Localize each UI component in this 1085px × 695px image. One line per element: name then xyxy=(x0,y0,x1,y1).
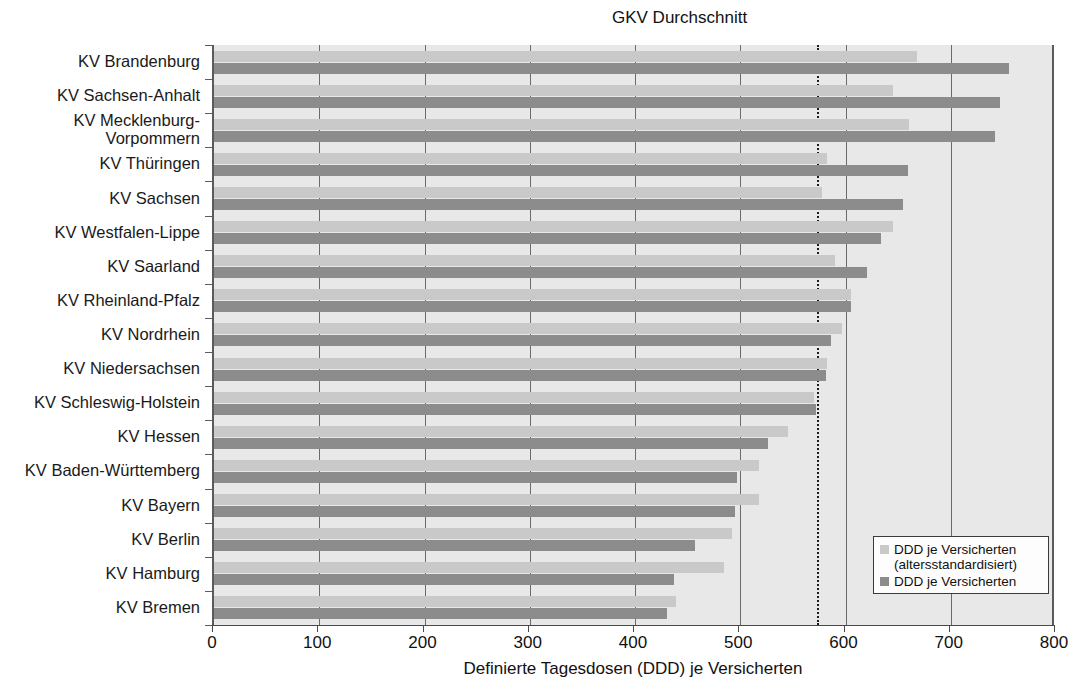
bar-light-3 xyxy=(214,153,827,164)
bar-light-1 xyxy=(214,85,893,96)
bar-light-15 xyxy=(214,562,724,573)
x-tick-700 xyxy=(949,625,950,632)
x-tick-label-500: 500 xyxy=(708,633,768,653)
y-tick-14 xyxy=(205,523,212,524)
category-label-15: KV Hamburg xyxy=(0,564,200,582)
average-line-label: GKV Durchschnitt xyxy=(612,8,1012,28)
y-tick-4 xyxy=(205,181,212,182)
category-label-5: KV Westfalen-Lippe xyxy=(0,223,200,241)
bar-light-0 xyxy=(214,51,917,62)
x-tick-label-400: 400 xyxy=(603,633,663,653)
legend-label-0: DDD je Versicherten (altersstandardisier… xyxy=(894,542,1042,572)
bar-light-12 xyxy=(214,460,759,471)
bar-light-5 xyxy=(214,221,893,232)
x-tick-100 xyxy=(317,625,318,632)
bar-group xyxy=(214,420,1052,454)
category-label-4: KV Sachsen xyxy=(0,189,200,207)
bar-dark-16 xyxy=(214,608,667,619)
y-tick-15 xyxy=(205,557,212,558)
y-tick-6 xyxy=(205,250,212,251)
x-tick-500 xyxy=(738,625,739,632)
category-label-8: KV Nordrhein xyxy=(0,325,200,343)
x-axis-title: Definierte Tagesdosen (DDD) je Versicher… xyxy=(212,659,1054,679)
category-label-1: KV Sachsen-Anhalt xyxy=(0,86,200,104)
category-label-14: KV Berlin xyxy=(0,530,200,548)
x-tick-800 xyxy=(1054,625,1055,632)
y-tick-16 xyxy=(205,591,212,592)
y-tick-5 xyxy=(205,216,212,217)
x-tick-label-800: 800 xyxy=(1024,633,1084,653)
category-label-11: KV Hessen xyxy=(0,427,200,445)
y-tick-3 xyxy=(205,147,212,148)
bar-dark-15 xyxy=(214,574,674,585)
x-tick-400 xyxy=(633,625,634,632)
legend-swatch-light-icon xyxy=(880,545,889,554)
x-tick-300 xyxy=(528,625,529,632)
bar-light-7 xyxy=(214,289,851,300)
x-tick-label-700: 700 xyxy=(919,633,979,653)
bar-light-2 xyxy=(214,119,909,130)
category-label-2: KV Mecklenburg- Vorpommern xyxy=(0,111,200,147)
legend-entry-1: DDD je Versicherten xyxy=(880,574,1042,589)
category-label-9: KV Niedersachsen xyxy=(0,359,200,377)
category-label-3: KV Thüringen xyxy=(0,154,200,172)
x-tick-200 xyxy=(423,625,424,632)
y-tick-0 xyxy=(205,45,212,46)
x-tick-label-300: 300 xyxy=(498,633,558,653)
bar-light-4 xyxy=(214,187,822,198)
bar-group xyxy=(214,489,1052,523)
category-label-13: KV Bayern xyxy=(0,496,200,514)
x-tick-600 xyxy=(844,625,845,632)
y-tick-7 xyxy=(205,284,212,285)
bar-group xyxy=(214,250,1052,284)
legend-entry-0: DDD je Versicherten (altersstandardisier… xyxy=(880,542,1042,572)
bar-group xyxy=(214,318,1052,352)
bar-dark-4 xyxy=(214,199,903,210)
bar-group xyxy=(214,181,1052,215)
category-label-7: KV Rheinland-Pfalz xyxy=(0,291,200,309)
category-label-12: KV Baden-Württemberg xyxy=(0,461,200,479)
bar-group xyxy=(214,454,1052,488)
bar-group xyxy=(214,386,1052,420)
y-tick-2 xyxy=(205,113,212,114)
bar-group xyxy=(214,352,1052,386)
x-tick-label-0: 0 xyxy=(182,633,242,653)
category-axis-labels: KV BrandenburgKV Sachsen-AnhaltKV Meckle… xyxy=(0,45,206,625)
y-tick-8 xyxy=(205,318,212,319)
category-label-16: KV Bremen xyxy=(0,598,200,616)
bar-light-16 xyxy=(214,596,676,607)
y-tick-11 xyxy=(205,420,212,421)
bar-dark-0 xyxy=(214,63,1009,74)
bar-dark-6 xyxy=(214,267,867,278)
y-tick-end xyxy=(205,625,212,626)
chart-figure: GKV Durchschnitt KV BrandenburgKV Sachse… xyxy=(0,0,1085,695)
legend-swatch-dark-icon xyxy=(880,577,889,586)
category-label-10: KV Schleswig-Holstein xyxy=(0,393,200,411)
y-tick-10 xyxy=(205,386,212,387)
bar-group xyxy=(214,79,1052,113)
bar-dark-1 xyxy=(214,97,1000,108)
x-tick-label-600: 600 xyxy=(814,633,874,653)
x-tick-label-200: 200 xyxy=(393,633,453,653)
bar-dark-5 xyxy=(214,233,881,244)
y-tick-12 xyxy=(205,454,212,455)
bar-group xyxy=(214,284,1052,318)
category-label-6: KV Saarland xyxy=(0,257,200,275)
bar-dark-11 xyxy=(214,438,768,449)
bar-dark-14 xyxy=(214,540,695,551)
bar-group xyxy=(214,113,1052,147)
x-tick-0 xyxy=(212,625,213,632)
y-tick-13 xyxy=(205,489,212,490)
category-label-0: KV Brandenburg xyxy=(0,52,200,70)
y-tick-1 xyxy=(205,79,212,80)
bar-group xyxy=(214,216,1052,250)
bar-group xyxy=(214,45,1052,79)
bar-light-8 xyxy=(214,323,842,334)
bar-group xyxy=(214,147,1052,181)
bar-dark-13 xyxy=(214,506,735,517)
bar-dark-3 xyxy=(214,165,908,176)
bar-dark-10 xyxy=(214,404,816,415)
chart-legend: DDD je Versicherten (altersstandardisier… xyxy=(873,536,1049,594)
bar-light-13 xyxy=(214,494,759,505)
bar-dark-7 xyxy=(214,301,851,312)
